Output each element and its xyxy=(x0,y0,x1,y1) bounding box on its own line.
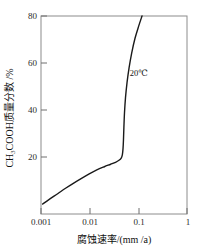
x-tick-label-1: 1 xyxy=(186,217,191,227)
x-tick-label-0-1: 0.1 xyxy=(133,217,144,227)
annotation-20c: 20℃ xyxy=(130,68,148,78)
corrosion-rate-chart: 80 60 40 20 0.001 0.01 0.1 1 腐蚀速率/(mm /a… xyxy=(0,0,202,251)
y-tick-label-40: 40 xyxy=(28,105,38,115)
chart-background xyxy=(0,0,202,251)
y-axis-title-prefix: CH xyxy=(4,154,15,168)
x-tick-label-0-01: 0.01 xyxy=(82,217,98,227)
x-axis-title: 腐蚀速率/(mm /a) xyxy=(77,233,152,246)
y-axis-title-suffix: COOH质量分数 /% xyxy=(3,68,15,150)
x-tick-label-0-001: 0.001 xyxy=(31,217,51,227)
y-tick-label-60: 60 xyxy=(28,58,38,68)
y-tick-label-20: 20 xyxy=(28,152,38,162)
chart-figure: 80 60 40 20 0.001 0.01 0.1 1 腐蚀速率/(mm /a… xyxy=(0,0,202,251)
y-tick-label-80: 80 xyxy=(28,11,38,21)
